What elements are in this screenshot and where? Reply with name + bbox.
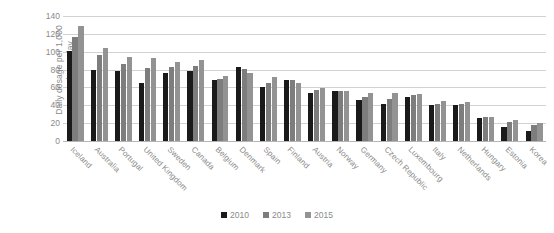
bar-2015 (103, 48, 108, 141)
bar-2010 (91, 70, 96, 141)
bar-group (111, 16, 135, 141)
bar-2015 (199, 60, 204, 141)
bar-chart: Daily dosage per 1,000 people per day 02… (0, 0, 554, 233)
x-axis-tick-cell: Belgium (208, 142, 232, 204)
bar-2010 (429, 105, 434, 141)
bar-group (256, 16, 280, 141)
bar-2013 (121, 64, 126, 141)
bar-2015 (175, 62, 180, 141)
x-axis-tick-cell: Germany (353, 142, 377, 204)
bar-2015 (272, 77, 277, 141)
bar-2013 (411, 95, 416, 141)
x-axis-tick-cell: Norway (329, 142, 353, 204)
bar-2010 (477, 118, 482, 141)
bar-2013 (483, 117, 488, 141)
bar-2013 (435, 104, 440, 142)
bar-2010 (501, 127, 506, 141)
bar-groups (63, 16, 546, 141)
bar-group (450, 16, 474, 141)
x-axis-tick-cell: Netherlands (450, 142, 474, 204)
bar-2013 (290, 80, 295, 141)
bar-group (280, 16, 304, 141)
y-axis-tick-label: 100 (46, 47, 60, 57)
x-axis-tick-cell: Canada (184, 142, 208, 204)
bar-2013 (145, 68, 150, 141)
bar-group (63, 16, 87, 141)
bar-2013 (169, 67, 174, 141)
bar-2015 (247, 73, 252, 141)
bar-2010 (284, 80, 289, 141)
x-axis-tick-cell: Korea (522, 142, 546, 204)
bar-2010 (139, 83, 144, 141)
bar-2010 (67, 51, 72, 141)
x-axis-tick-cell: Spain (256, 142, 280, 204)
legend-swatch (305, 212, 311, 218)
bar-group (401, 16, 425, 141)
plot-area (63, 16, 546, 141)
bar-group (305, 16, 329, 141)
x-axis-tick-cell: Hungary (474, 142, 498, 204)
bar-2010 (526, 131, 531, 141)
legend-label: 2015 (314, 210, 333, 220)
bar-2015 (127, 57, 132, 141)
bar-2010 (236, 67, 241, 141)
x-axis-tick-cell: Denmark (232, 142, 256, 204)
x-axis-tick-cell: Luxembourg (401, 142, 425, 204)
bar-2015 (344, 91, 349, 141)
bar-2015 (368, 93, 373, 141)
legend-label: 2013 (272, 210, 291, 220)
bar-group (184, 16, 208, 141)
x-axis-tick-cell: Australia (87, 142, 111, 204)
bar-group (135, 16, 159, 141)
bar-2015 (537, 123, 542, 141)
bar-2010 (115, 71, 120, 141)
x-axis-tick-cell: Portugal (111, 142, 135, 204)
bar-group (522, 16, 546, 141)
bar-2013 (338, 91, 343, 141)
bar-2010 (308, 93, 313, 141)
bar-2010 (453, 105, 458, 141)
x-axis-tick-cell: Finland (280, 142, 304, 204)
bar-2015 (513, 120, 518, 141)
y-axis-tick-labels: 020406080100120140 (36, 16, 60, 141)
x-axis-tick-cell: Estonia (498, 142, 522, 204)
bar-group (87, 16, 111, 141)
bar-2013 (72, 37, 77, 141)
y-axis-tick-label: 80 (51, 65, 60, 75)
x-axis-tick-cell: Austria (305, 142, 329, 204)
legend-item: 2010 (221, 210, 249, 220)
bar-group (474, 16, 498, 141)
bar-2015 (417, 94, 422, 141)
bar-2015 (78, 26, 83, 141)
bar-2010 (187, 71, 192, 141)
y-axis-tick-label: 40 (51, 100, 60, 110)
bar-2013 (362, 97, 367, 141)
bar-2013 (459, 104, 464, 142)
y-axis-tick-label: 120 (46, 29, 60, 39)
bar-group (498, 16, 522, 141)
bar-2015 (320, 88, 325, 141)
x-axis-tick-cell: United Kingdom (135, 142, 159, 204)
bar-2013 (193, 66, 198, 141)
bar-group (377, 16, 401, 141)
bar-2015 (296, 83, 301, 141)
y-axis-tick-label: 60 (51, 82, 60, 92)
x-axis-tick-label: Italy (431, 145, 448, 162)
x-axis-tick-cell: Sweden (160, 142, 184, 204)
bar-2010 (405, 97, 410, 141)
bar-2015 (223, 76, 228, 141)
x-axis-tick-labels: IcelandAustraliaPortugalUnited KingdomSw… (63, 142, 546, 204)
legend-swatch (263, 212, 269, 218)
bar-2013 (217, 79, 222, 142)
bar-2013 (387, 99, 392, 141)
bar-group (329, 16, 353, 141)
legend-item: 2015 (305, 210, 333, 220)
bar-2010 (381, 104, 386, 141)
bar-2010 (332, 91, 337, 141)
y-axis-tick-label: 140 (46, 11, 60, 21)
bar-2015 (392, 93, 397, 141)
x-axis-tick-cell: Italy (425, 142, 449, 204)
bar-2013 (314, 90, 319, 141)
x-axis-tick-label: Korea (528, 145, 550, 167)
bar-2015 (151, 58, 156, 141)
